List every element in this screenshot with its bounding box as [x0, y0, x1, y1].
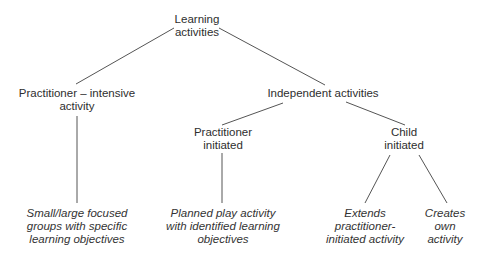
edge-child-creates [419, 155, 447, 203]
leaf-planned-play-activity: Planned play activity with identified le… [166, 207, 280, 246]
node-learning-activities: Learning activities [175, 13, 220, 39]
edge-independent-child-initiated [346, 102, 405, 125]
leaf-small-large-focused-groups: Small/large focused groups with specific… [27, 207, 128, 246]
learning-activities-tree-diagram: Learning activities Practitioner – inten… [0, 0, 486, 260]
edge-root-practitioner-intensive [76, 28, 174, 84]
leaf-label-line: Extends [326, 207, 404, 220]
node-label-line: Practitioner [194, 126, 252, 139]
leaf-label-line: groups with specific [27, 220, 128, 233]
node-practitioner-intensive-activity: Practitioner – intensive activity [19, 87, 135, 113]
leaf-label-line: with identified learning [166, 220, 280, 233]
leaf-label-line: initiated activity [326, 233, 404, 246]
edge-root-independent [219, 28, 325, 85]
leaf-label-line: Planned play activity [166, 207, 280, 220]
leaf-label-line: own [425, 220, 465, 233]
node-label-line: Independent activities [267, 87, 378, 100]
node-label-line: Learning [175, 13, 220, 26]
node-label-line: Practitioner – intensive [19, 87, 135, 100]
leaf-label-line: Creates [425, 207, 465, 220]
leaf-extends-practitioner-initiated: Extends practitioner- initiated activity [326, 207, 404, 246]
edge-independent-practitioner-initiated [222, 103, 283, 125]
node-practitioner-initiated: Practitioner initiated [194, 126, 252, 152]
node-independent-activities: Independent activities [267, 87, 378, 100]
node-label-line: activities [175, 26, 220, 39]
node-label-line: initiated [194, 139, 252, 152]
leaf-label-line: activity [425, 233, 465, 246]
edge-child-extends [365, 155, 390, 203]
leaf-label-line: practitioner- [326, 220, 404, 233]
leaf-label-line: learning objectives [27, 233, 128, 246]
node-label-line: Child [384, 126, 424, 139]
node-label-line: activity [19, 100, 135, 113]
node-child-initiated: Child initiated [384, 126, 424, 152]
leaf-label-line: objectives [166, 233, 280, 246]
leaf-label-line: Small/large focused [27, 207, 128, 220]
leaf-creates-own-activity: Creates own activity [425, 207, 465, 246]
node-label-line: initiated [384, 139, 424, 152]
